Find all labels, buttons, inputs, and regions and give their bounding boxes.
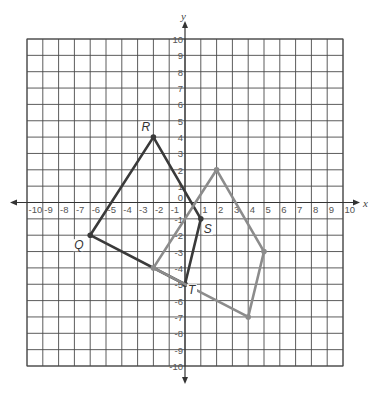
x-axis-label: x (362, 197, 368, 209)
x-tick-label: -7 (76, 204, 84, 215)
coordinate-plane: xy -10-9-8-7-6-5-4-3-2-112345678910-10-9… (0, 0, 381, 401)
coordinate-plane-figure: xy -10-9-8-7-6-5-4-3-2-112345678910-10-9… (0, 0, 381, 401)
x-tick-label: 8 (313, 204, 318, 215)
y-tick-label: -7 (175, 312, 183, 323)
x-axis-arrow-left-icon (10, 200, 17, 206)
vertex-point (245, 314, 251, 320)
y-tick-label: -3 (175, 247, 183, 258)
x-tick-label: 6 (281, 204, 286, 215)
x-tick-label: 5 (266, 204, 271, 215)
x-tick-label: -10 (29, 204, 43, 215)
y-axis-arrow-up-icon (182, 21, 188, 28)
y-axis-arrow-down-icon (182, 377, 188, 384)
vertex-label-q: Q (74, 238, 83, 252)
x-tick-label: 2 (218, 204, 223, 215)
y-tick-label: -10 (169, 361, 183, 372)
vertex-point-s (198, 216, 204, 222)
x-tick-label: -9 (44, 204, 52, 215)
y-tick-label: 10 (172, 34, 183, 45)
y-tick-label: -8 (175, 328, 183, 339)
y-tick-label: 3 (178, 148, 183, 159)
vertex-point-r (151, 134, 157, 140)
polygon-image (153, 170, 264, 317)
y-tick-label: 7 (178, 83, 183, 94)
x-tick-label: 9 (329, 204, 334, 215)
vertex-label-r: R (141, 120, 150, 134)
y-tick-label: 6 (178, 99, 183, 110)
y-axis-label: y (180, 10, 186, 22)
x-tick-label: 4 (250, 204, 255, 215)
vertex-label-s: S (204, 222, 212, 236)
x-tick-label: 1 (202, 204, 207, 215)
x-tick-label: -8 (60, 204, 68, 215)
vertex-point (261, 249, 267, 255)
shapes (87, 134, 266, 319)
vertex-point (151, 265, 157, 271)
x-tick-label: -4 (123, 204, 131, 215)
y-tick-label: -4 (175, 263, 183, 274)
y-tick-label: 8 (178, 67, 183, 78)
vertex-point-q (87, 232, 93, 238)
y-tick-label: 9 (178, 50, 183, 61)
y-tick-label: 4 (178, 132, 183, 143)
y-tick-label: 5 (178, 116, 183, 127)
origin-label: 0 (178, 192, 183, 203)
x-tick-label: -2 (155, 204, 163, 215)
x-tick-label: 10 (345, 204, 356, 215)
y-tick-label: -6 (175, 296, 183, 307)
x-tick-label: 7 (297, 204, 302, 215)
x-tick-label: -3 (139, 204, 147, 215)
vertex-point (214, 167, 220, 173)
y-tick-label: -9 (175, 345, 183, 356)
x-tick-label: -6 (92, 204, 100, 215)
x-tick-label: -1 (171, 204, 179, 215)
y-tick-label: 2 (178, 165, 183, 176)
